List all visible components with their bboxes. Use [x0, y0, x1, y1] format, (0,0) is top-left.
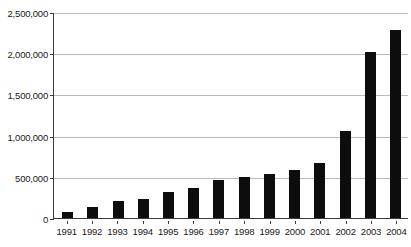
x-axis-tick-label: 2003 — [358, 226, 383, 237]
x-tick-mark — [346, 221, 347, 224]
bar-slot-1992 — [80, 13, 105, 218]
bar-1999 — [264, 174, 275, 218]
bar-1994 — [138, 199, 149, 218]
bar-slot-1999 — [257, 13, 282, 218]
x-axis-tick-label: 2002 — [333, 226, 358, 237]
bar-slot-1996 — [181, 13, 206, 218]
y-axis-tick-label: 500,000 — [0, 172, 48, 183]
x-axis-tick-label: 1999 — [257, 226, 282, 237]
x-tick-slot-2004: 2004 — [384, 221, 409, 237]
x-axis-tick-label: 1996 — [181, 226, 206, 237]
x-tick-mark — [193, 221, 194, 224]
plot-area — [53, 13, 408, 219]
x-tick-mark — [168, 221, 169, 224]
x-tick-slot-2000: 2000 — [282, 221, 307, 237]
bar-1995 — [163, 192, 174, 218]
x-tick-slot-2001: 2001 — [308, 221, 333, 237]
y-tick-mark — [50, 219, 54, 220]
x-axis-tick-label: 1991 — [54, 226, 79, 237]
bar-slot-2003 — [358, 13, 383, 218]
bar-1992 — [87, 207, 98, 218]
bar-2003 — [365, 52, 376, 218]
y-axis-tick-label: 2,000,000 — [0, 49, 48, 60]
bar-1993 — [113, 201, 124, 218]
bar-2001 — [314, 163, 325, 218]
bar-slot-1997 — [206, 13, 231, 218]
bar-slot-1993 — [105, 13, 130, 218]
x-tick-slot-1992: 1992 — [79, 221, 104, 237]
bar-slot-1991 — [55, 13, 80, 218]
x-axis-labels: 1991199219931994199519961997199819992000… — [54, 221, 409, 237]
x-tick-slot-1995: 1995 — [155, 221, 180, 237]
x-tick-mark — [92, 221, 93, 224]
x-axis-tick-label: 1997 — [206, 226, 231, 237]
y-axis-tick-label: 1,500,000 — [0, 90, 48, 101]
x-tick-slot-2003: 2003 — [358, 221, 383, 237]
x-tick-slot-1996: 1996 — [181, 221, 206, 237]
x-tick-mark — [143, 221, 144, 224]
bar-slot-2004 — [383, 13, 408, 218]
x-tick-mark — [67, 221, 68, 224]
x-tick-slot-2002: 2002 — [333, 221, 358, 237]
bar-chart: 0500,0001,000,0001,500,0002,000,0002,500… — [0, 0, 411, 247]
x-tick-mark — [295, 221, 296, 224]
y-axis-tick-label: 0 — [0, 214, 48, 225]
x-axis-tick-label: 2000 — [282, 226, 307, 237]
x-tick-mark — [117, 221, 118, 224]
x-axis-tick-label: 1994 — [130, 226, 155, 237]
x-axis-tick-label: 2004 — [384, 226, 409, 237]
x-tick-slot-1991: 1991 — [54, 221, 79, 237]
bar-series — [55, 13, 408, 218]
x-tick-slot-1997: 1997 — [206, 221, 231, 237]
x-tick-mark — [371, 221, 372, 224]
y-tick-mark — [50, 13, 54, 14]
bar-1997 — [213, 180, 224, 218]
x-axis-tick-label: 1995 — [155, 226, 180, 237]
y-tick-mark — [50, 95, 54, 96]
x-axis-tick-label: 1998 — [232, 226, 257, 237]
y-axis-tick-label: 1,000,000 — [0, 131, 48, 142]
x-tick-mark — [244, 221, 245, 224]
bar-slot-2000 — [282, 13, 307, 218]
bar-1998 — [239, 177, 250, 218]
x-tick-slot-1999: 1999 — [257, 221, 282, 237]
bar-slot-1994 — [131, 13, 156, 218]
x-axis-tick-label: 1992 — [79, 226, 104, 237]
bar-slot-2001 — [307, 13, 332, 218]
bar-slot-1998 — [232, 13, 257, 218]
y-axis-tick-label: 2,500,000 — [0, 8, 48, 19]
bar-slot-2002 — [332, 13, 357, 218]
x-tick-slot-1998: 1998 — [232, 221, 257, 237]
bar-2002 — [340, 131, 351, 218]
x-axis-tick-label: 1993 — [105, 226, 130, 237]
x-tick-mark — [219, 221, 220, 224]
y-tick-mark — [50, 178, 54, 179]
y-tick-mark — [50, 54, 54, 55]
x-tick-slot-1993: 1993 — [105, 221, 130, 237]
x-tick-mark — [270, 221, 271, 224]
y-tick-mark — [50, 137, 54, 138]
bar-2000 — [289, 170, 300, 218]
x-axis-tick-label: 2001 — [308, 226, 333, 237]
bar-2004 — [390, 30, 401, 218]
x-tick-mark — [320, 221, 321, 224]
x-tick-mark — [396, 221, 397, 224]
bar-slot-1995 — [156, 13, 181, 218]
bar-1991 — [62, 212, 73, 218]
x-tick-slot-1994: 1994 — [130, 221, 155, 237]
bar-1996 — [188, 188, 199, 218]
